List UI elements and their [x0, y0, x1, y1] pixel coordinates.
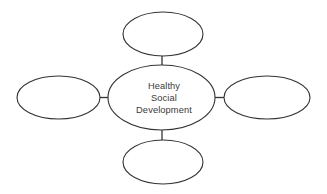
concept-map-canvas: Healthy Social Development — [0, 0, 327, 194]
satellite-node-left[interactable] — [17, 76, 100, 119]
concept-map-diagram: Healthy Social Development — [0, 0, 327, 194]
satellite-node-bottom[interactable] — [123, 140, 203, 184]
center-node-label-line-3: Development — [136, 105, 192, 115]
center-node-label-line-2: Social — [151, 93, 177, 103]
satellite-node-top[interactable] — [123, 12, 203, 56]
center-node-label-line-1: Healthy — [148, 81, 180, 91]
satellite-node-right[interactable] — [224, 76, 310, 119]
